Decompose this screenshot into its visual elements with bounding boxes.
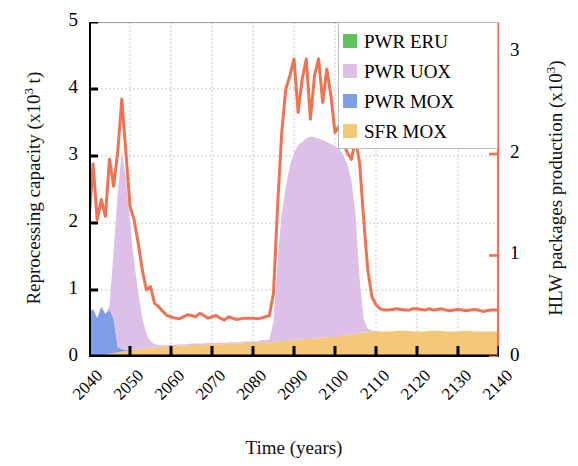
y-axis-right-title: HLW packages production (x103) [543, 23, 567, 353]
y-axis-left-title: Reprocessing capacity (x103 t) [21, 23, 45, 353]
legend-swatch-icon [343, 124, 357, 138]
y-left-ticklabel: 1 [48, 277, 78, 299]
legend-item[interactable]: PWR MOX [343, 86, 497, 116]
y-left-ticklabel: 5 [48, 9, 78, 31]
y-right-ticklabel: 2 [510, 141, 540, 163]
y-left-ticklabel: 0 [48, 344, 78, 366]
y-left-ticklabel: 3 [48, 143, 78, 165]
area-pwr-uox [89, 137, 499, 350]
legend-label: PWR ERU [364, 32, 448, 51]
legend-swatch-icon [343, 34, 357, 48]
legend-item[interactable]: PWR ERU [343, 26, 497, 56]
legend-label: PWR MOX [364, 92, 454, 111]
y-right-ticklabel: 1 [510, 242, 540, 264]
x-axis-title: Time (years) [89, 437, 499, 459]
y-right-ticklabel: 3 [510, 39, 540, 61]
legend-item[interactable]: PWR UOX [343, 56, 497, 86]
legend-item[interactable]: SFR MOX [343, 116, 497, 146]
chart-legend: PWR ERUPWR UOXPWR MOXSFR MOX [338, 22, 498, 149]
y-right-ticklabel: 0 [510, 344, 540, 366]
y-left-ticklabel: 4 [48, 76, 78, 98]
chart-figure: Reprocessing capacity (x103 t) HLW packa… [0, 0, 578, 466]
legend-label: PWR UOX [364, 62, 451, 81]
y-left-ticklabel: 2 [48, 210, 78, 232]
legend-swatch-icon [343, 94, 357, 108]
legend-label: SFR MOX [364, 122, 447, 141]
legend-swatch-icon [343, 64, 357, 78]
